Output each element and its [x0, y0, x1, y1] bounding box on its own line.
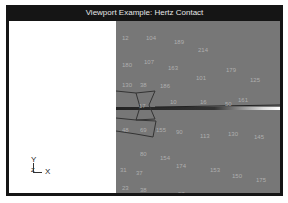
node-label: 101 [196, 75, 206, 81]
node-label: 161 [238, 97, 248, 103]
node-label: 186 [160, 83, 170, 89]
viewport-window: Viewport Example: Hertz Contact Y Z X 12… [6, 5, 283, 196]
node-label: 130 [122, 82, 132, 88]
node-label: 145 [254, 134, 264, 140]
node-label: 189 [174, 39, 184, 45]
node-label: 31 [120, 167, 127, 173]
node-label: 48 [122, 127, 129, 133]
node-label: 130 [228, 131, 238, 137]
node-label: 16 [200, 99, 207, 105]
x-axis-label: X [45, 167, 50, 176]
node-label: 154 [160, 155, 170, 161]
node-label: 17 [139, 103, 146, 109]
node-label: 113 [200, 133, 210, 139]
node-label: 104 [146, 35, 156, 41]
node-label: 80 [140, 151, 147, 157]
node-label: 125 [250, 77, 260, 83]
node-label: 107 [144, 59, 154, 65]
node-label: 23 [122, 185, 129, 191]
node-label: 153 [210, 167, 220, 173]
node-label: 179 [226, 67, 236, 73]
node-label: 97 [178, 191, 185, 193]
node-label: 214 [198, 47, 208, 53]
node-label: 155 [156, 127, 166, 133]
node-label: 69 [140, 127, 147, 133]
node-label: 174 [176, 163, 186, 169]
node-label: 38 [140, 82, 147, 88]
window-title: Viewport Example: Hertz Contact [6, 5, 283, 21]
x-axis-arrow-icon [33, 172, 42, 173]
node-label: 50 [225, 101, 232, 107]
node-label: 90 [176, 129, 183, 135]
node-label: 163 [168, 65, 178, 71]
node-label: 12 [122, 35, 129, 41]
render-viewport[interactable]: Y Z X 1210418921417918010716310113038186… [9, 21, 280, 193]
node-label: 175 [256, 177, 266, 183]
axis-triad: Y Z X [29, 155, 59, 185]
node-label: 150 [232, 173, 242, 179]
node-label: 37 [136, 170, 143, 176]
node-label: 38 [140, 187, 147, 193]
node-label: 10 [170, 99, 177, 105]
node-label: 180 [122, 62, 132, 68]
